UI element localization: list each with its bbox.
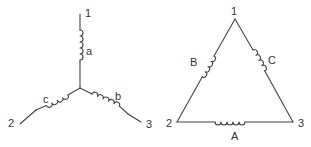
star-winding-b-label: b [115,90,121,102]
star-winding-c-label: c [43,93,49,105]
winding-c [20,88,80,124]
delta-winding-B-label: B [190,56,197,68]
winding-C [235,19,293,122]
star-terminal-3: 3 [146,118,152,130]
winding-B [177,19,235,122]
star-terminal-1: 1 [85,7,91,19]
delta-terminal-1: 1 [231,5,237,17]
delta-terminal-3: 3 [298,117,304,129]
winding-A [177,122,293,125]
star-connection: 1 a b c 2 3 [8,7,152,130]
delta-winding-A-label: A [231,130,239,142]
winding-b [80,88,141,122]
delta-winding-C-label: C [268,54,276,66]
winding-a [80,14,83,88]
star-winding-a-label: a [86,45,93,57]
delta-terminal-2: 2 [166,117,172,129]
star-terminal-2: 2 [8,117,14,129]
delta-connection: 1 B C 2 3 A [166,5,304,142]
diagram-canvas: 1 a b c 2 3 1 B C 2 3 A [0,0,311,147]
